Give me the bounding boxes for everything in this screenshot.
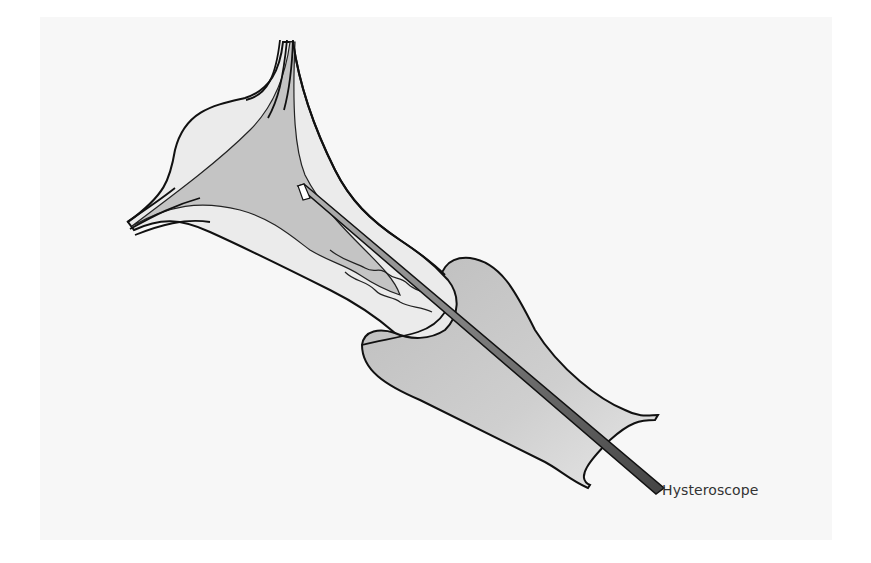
hysteroscope-label: Hysteroscope — [662, 482, 758, 498]
hysteroscope-instrument — [298, 184, 664, 494]
hysteroscopy-illustration — [0, 0, 871, 563]
